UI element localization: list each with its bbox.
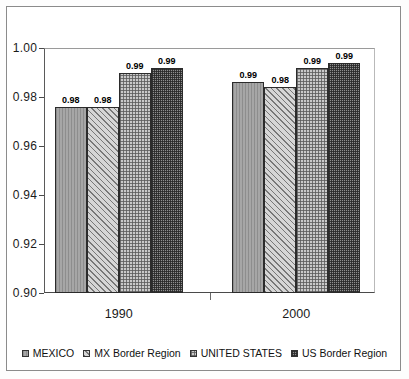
legend-label: MX Border Region [94,348,180,359]
legend-label: US Border Region [302,348,387,359]
legend-swatch-icon [22,350,29,357]
legend-label: MEXICO [33,348,74,359]
bar-united-states-1990[interactable]: 0.99 [119,73,151,294]
bar-us-border-region-1990[interactable]: 0.99 [151,68,183,293]
y-axis-tick-mark [39,48,44,49]
chart-figure: 0.900.920.940.960.981.00 19902000 0.980.… [0,0,409,379]
bar-value-label: 0.99 [126,61,144,71]
legend-swatch-icon [190,350,197,357]
legend-label: UNITED STATES [201,348,282,359]
bar-value-label: 0.98 [94,95,112,105]
y-axis-tick-mark [39,195,44,196]
bar-value-label: 0.99 [158,56,176,66]
x-axis-tick-label-1990: 1990 [105,307,133,321]
plot-wrapper: 0.900.920.940.960.981.00 19902000 0.980.… [44,48,375,293]
legend-item-mexico[interactable]: MEXICO [22,348,74,359]
bar-value-label: 0.99 [239,70,257,80]
bar-value-label: 0.99 [335,51,353,61]
y-axis-tick-mark [39,97,44,98]
x-axis-tick-label-2000: 2000 [282,307,310,321]
bar-mexico-2000[interactable]: 0.99 [232,82,264,293]
legend-swatch-icon [83,350,90,357]
bar-united-states-2000[interactable]: 0.99 [296,68,328,293]
bar-value-label: 0.99 [303,56,321,66]
x-axis-group-divider [210,293,211,300]
bar-value-label: 0.98 [271,75,289,85]
bar-mexico-1990[interactable]: 0.98 [55,107,87,293]
y-axis-tick-mark [39,244,44,245]
bar-value-label: 0.98 [62,95,80,105]
y-axis-tick-mark [39,293,44,294]
bar-us-border-region-2000[interactable]: 0.99 [328,63,360,293]
legend-item-mx-border-region[interactable]: MX Border Region [83,348,180,359]
y-axis-tick-mark [39,146,44,147]
legend-swatch-icon [291,350,298,357]
legend-item-us-border-region[interactable]: US Border Region [291,348,387,359]
bar-mx-border-region-1990[interactable]: 0.98 [87,107,119,293]
legend-item-united-states[interactable]: UNITED STATES [190,348,282,359]
chart-legend: MEXICOMX Border RegionUNITED STATESUS Bo… [0,348,409,359]
bar-mx-border-region-2000[interactable]: 0.98 [264,87,296,293]
